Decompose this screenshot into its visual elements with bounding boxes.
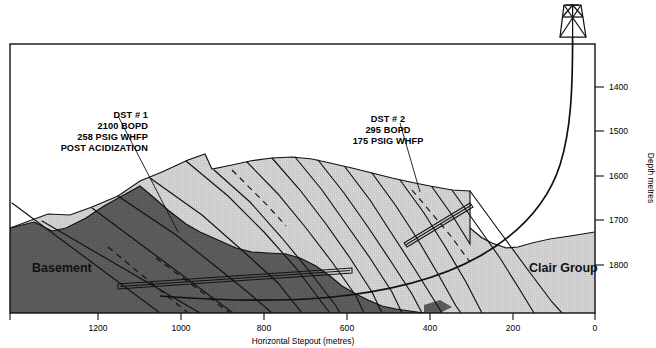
dst-2-pressure: 175 PSIG WHFP xyxy=(353,136,424,146)
y-tick-label-1700: 1700 xyxy=(609,215,628,225)
x-tick-label-600: 600 xyxy=(340,323,355,333)
clair-group-label: Clair Group xyxy=(529,261,598,275)
x-tick-label-1200: 1200 xyxy=(88,323,107,333)
y-tick-label-1600: 1600 xyxy=(609,171,628,181)
dst-1-title: DST # 1 xyxy=(114,110,148,120)
dst-2-rate: 295 BOPD xyxy=(365,125,410,135)
x-tick-label-200: 200 xyxy=(506,323,521,333)
basement-label: Basement xyxy=(32,261,93,275)
dst-1-pressure: 258 PSIG WHFP xyxy=(77,132,148,142)
y-tick-label-1500: 1500 xyxy=(609,126,628,136)
y-tick-label-1800: 1800 xyxy=(609,260,628,270)
geological-cross-section-figure: 1200 1000 800 600 400 200 0 Horizontal S… xyxy=(0,0,656,348)
x-tick-label-800: 800 xyxy=(257,323,272,333)
x-tick-label-1000: 1000 xyxy=(171,323,190,333)
cross-section-svg: 1200 1000 800 600 400 200 0 Horizontal S… xyxy=(0,0,656,348)
x-axis-title: Horizontal Stepout (metres) xyxy=(252,336,355,346)
x-tick-label-0: 0 xyxy=(593,323,598,333)
y-tick-label-1400: 1400 xyxy=(609,82,628,92)
y-axis-title: Depth metres xyxy=(646,153,656,203)
x-tick-label-400: 400 xyxy=(423,323,438,333)
dst-2-title: DST # 2 xyxy=(371,114,405,124)
dst-1-note: POST ACIDIZATION xyxy=(61,143,149,153)
